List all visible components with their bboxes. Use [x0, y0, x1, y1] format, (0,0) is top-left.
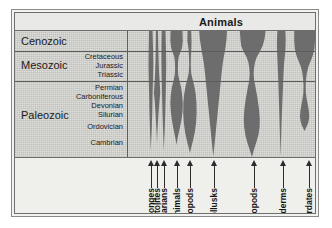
- period-label-ordovician: Ordovician: [87, 123, 123, 131]
- taxon-label-cnidarians: Cnidarians: [159, 188, 169, 214]
- silhouette-moss-animals: [170, 31, 182, 145]
- era-divider-cenozoic-mesozoic: [15, 51, 315, 52]
- arrow-stem: [164, 166, 165, 188]
- silhouette-echinoderms: [277, 31, 286, 156]
- era-row-paleozoic: Paleozoic Permian Carboniferous Devonian…: [15, 81, 127, 157]
- chart-title: Animals: [127, 13, 315, 31]
- arrow-stem: [254, 166, 255, 188]
- label-plot-divider: [127, 31, 128, 157]
- arrow-stem: [157, 166, 158, 188]
- taxon-label-brachiopods: Brachiopods: [185, 188, 195, 214]
- silhouette-mollusks: [199, 31, 227, 156]
- taxon-label-plot: Sponges Graptolites Cnidarians Moss anim…: [128, 158, 315, 213]
- era-label-mesozoic: Mesozoic: [21, 59, 67, 71]
- period-label-permian: Permian: [95, 84, 123, 92]
- period-label-devonian: Devonian: [91, 102, 123, 110]
- period-label-carboniferous: Carboniferous: [76, 93, 123, 101]
- taxon-label-echinoderms: Echinoderms: [278, 188, 288, 214]
- chart-frame: Animals Cenozoic Mesozoic Cretaceous Jur…: [14, 12, 316, 214]
- silhouette-brachiopods: [183, 31, 196, 153]
- silhouette-graptolites: [154, 31, 160, 144]
- header-band: Animals: [15, 13, 315, 31]
- era-label-column: Cenozoic Mesozoic Cretaceous Jurassic Tr…: [15, 31, 127, 157]
- diversity-silhouettes: [128, 31, 315, 157]
- era-label-paleozoic: Paleozoic: [21, 109, 69, 121]
- taxon-label-moss-animals: Moss animals: [172, 188, 182, 214]
- taxon-label-band: Sponges Graptolites Cnidarians Moss anim…: [15, 158, 315, 213]
- taxon-label-mollusks: Mollusks: [209, 188, 219, 214]
- silhouette-svg: [128, 31, 315, 157]
- silhouette-sponges: [148, 31, 153, 151]
- era-divider-mesozoic-paleozoic: [15, 81, 315, 82]
- taxon-label-arthropods: Arthropods: [249, 188, 259, 214]
- period-label-cambrian: Cambrian: [90, 139, 123, 147]
- period-label-silurian: Silurian: [98, 111, 123, 119]
- period-label-jurassic: Jurassic: [95, 62, 123, 70]
- arrow-stem: [309, 166, 310, 188]
- silhouette-arthropods: [240, 31, 266, 157]
- arrow-stem: [214, 166, 215, 188]
- arrow-stem: [151, 166, 152, 188]
- era-row-cenozoic: Cenozoic: [15, 31, 127, 51]
- era-label-cenozoic: Cenozoic: [21, 35, 67, 47]
- taxon-label-chordates: Chordates: [304, 188, 314, 214]
- arrow-stem: [190, 166, 191, 188]
- geologic-time-diversity-chart: Animals Cenozoic Mesozoic Cretaceous Jur…: [0, 0, 332, 228]
- silhouette-cnidarians: [161, 31, 166, 151]
- era-row-mesozoic: Mesozoic Cretaceous Jurassic Triassic: [15, 51, 127, 81]
- arrow-stem: [177, 166, 178, 188]
- period-label-triassic: Triassic: [97, 71, 123, 79]
- arrow-stem: [283, 166, 284, 188]
- period-label-cretaceous: Cretaceous: [85, 53, 123, 61]
